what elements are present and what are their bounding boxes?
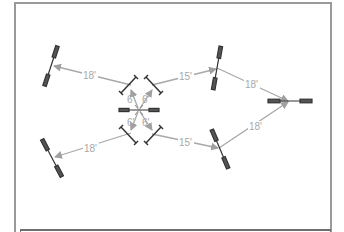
speaker-lower-left-icon (41, 139, 64, 178)
listener-lower-left-icon (119, 125, 138, 145)
speaker-right-icon (268, 99, 312, 103)
speaker-layout-diagram: 18' 18' 15' 15' 18' 18' 6' 6' 6' 6' (0, 0, 344, 232)
speaker-upper-left-icon (43, 45, 59, 86)
listener-lower-right-icon (144, 125, 163, 145)
label-upper-left-distance: 18' (83, 70, 96, 81)
label-lower-right-distance: 18' (249, 121, 262, 132)
label-lower-mid-distance: 15' (179, 137, 192, 148)
speaker-upper-right-icon (211, 46, 222, 90)
label-center-ur: 6' (142, 94, 150, 105)
listener-upper-left-icon (119, 75, 138, 95)
label-center-ul: 6' (127, 94, 135, 105)
listener-upper-right-icon (144, 75, 163, 95)
label-upper-mid-distance: 15' (179, 71, 192, 82)
speaker-lower-right-icon (210, 129, 230, 169)
label-center-lr: 6' (142, 117, 150, 128)
label-center-ll: 6' (127, 117, 135, 128)
label-lower-left-distance: 18' (84, 143, 97, 154)
label-upper-right-distance: 18' (245, 79, 258, 90)
